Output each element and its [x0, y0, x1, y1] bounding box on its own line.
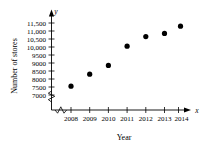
- y-tick-label: 9000: [32, 60, 47, 68]
- x-tick-label: 2009: [83, 115, 98, 123]
- x-tick-label: 2012: [139, 115, 154, 123]
- y-tick-label: 10,000: [27, 44, 47, 52]
- x-axis-tick-labels: 2008 2009 2010 2011 2012 2013 2014: [64, 115, 189, 123]
- data-point: [143, 34, 148, 39]
- data-point: [106, 63, 111, 68]
- y-tick-label: 8000: [32, 76, 47, 84]
- x-tick-label: 2010: [101, 115, 116, 123]
- y-tick-label: 8500: [32, 68, 47, 76]
- y-axis-title: Number of stores: [10, 38, 19, 94]
- data-point: [162, 31, 167, 36]
- data-point: [87, 72, 92, 77]
- scatter-plot-figure: 7000 7500 8000 8500 9000 9500 10,000 10,…: [0, 0, 209, 151]
- x-axis-variable-name: x: [194, 106, 199, 115]
- chart-canvas: 7000 7500 8000 8500 9000 9500 10,000 10,…: [0, 0, 209, 151]
- y-tick-label: 11,500: [27, 20, 46, 28]
- y-axis-arrowhead: [49, 10, 54, 17]
- data-series: [68, 24, 183, 89]
- y-tick-label: 7000: [32, 92, 47, 100]
- x-axis: [52, 107, 192, 112]
- y-axis-variable-name: y: [53, 7, 58, 16]
- data-point: [178, 24, 183, 29]
- x-tick-label: 2008: [64, 115, 79, 123]
- data-point: [125, 44, 130, 49]
- y-tick-label: 10,500: [27, 36, 47, 44]
- x-axis-title: Year: [117, 133, 132, 142]
- y-tick-label: 9500: [32, 52, 47, 60]
- x-tick-label: 2013: [158, 115, 173, 123]
- data-point: [68, 84, 73, 89]
- x-tick-label: 2011: [120, 115, 134, 123]
- y-tick-label: 11,000: [27, 28, 46, 36]
- y-tick-label: 7500: [32, 84, 47, 92]
- x-axis-arrowhead: [184, 107, 191, 112]
- x-tick-label: 2014: [175, 115, 190, 123]
- y-axis-tick-labels: 7000 7500 8000 8500 9000 9500 10,000 10,…: [27, 20, 47, 100]
